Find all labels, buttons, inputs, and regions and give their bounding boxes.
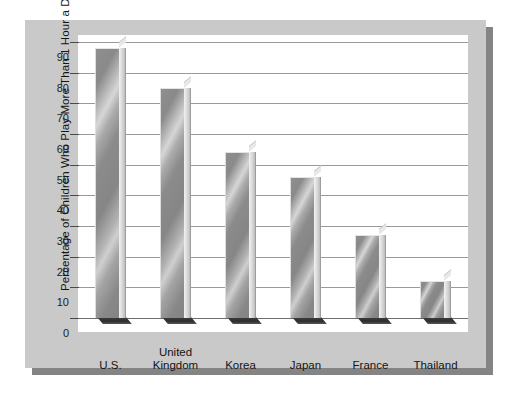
y-tick-label-50: 50: [43, 175, 69, 186]
bar-thailand: [420, 281, 451, 318]
bar-front-face: [420, 281, 444, 318]
bar-side-face: [119, 48, 126, 318]
y-tick-label-80: 80: [43, 83, 69, 94]
gridline-50: [78, 165, 468, 166]
gridline-10: [78, 287, 468, 288]
gridline-70: [78, 103, 468, 104]
bar-u-s: [95, 48, 126, 318]
bar-base-shadow: [292, 317, 327, 324]
bar-united-kingdom: [160, 88, 191, 318]
gridline-40: [78, 195, 468, 196]
y-axis-tick-labels: 9080706050403020100: [39, 35, 69, 332]
x-tick-label-line: Kingdom: [143, 359, 208, 372]
bar-korea: [225, 152, 256, 318]
gridlines: [78, 35, 468, 332]
y-tick-label-70: 70: [43, 113, 69, 124]
y-tick-label-60: 60: [43, 144, 69, 155]
bar-japan: [290, 177, 321, 318]
bar-side-face: [444, 281, 451, 318]
bar-side-face: [314, 177, 321, 318]
y-tick-mark-30: [70, 226, 79, 227]
bar-front-face: [225, 152, 249, 318]
x-tick-label-france: France: [338, 359, 403, 372]
y-tick-label-30: 30: [43, 236, 69, 247]
bar-side-face: [184, 88, 191, 318]
bar-side-face: [249, 152, 256, 318]
x-tick-label-japan: Japan: [273, 359, 338, 372]
gridline-60: [78, 134, 468, 135]
y-tick-label-40: 40: [43, 205, 69, 216]
gridline-0: [78, 318, 468, 319]
x-tick-label-thailand: Thailand: [403, 359, 468, 372]
y-tick-mark-0: [70, 318, 79, 319]
y-tick-mark-80: [70, 73, 79, 74]
bar-front-face: [160, 88, 184, 318]
bar-base-shadow: [227, 317, 262, 324]
x-tick-label-united-kingdom: UnitedKingdom: [143, 346, 208, 372]
bar-base-shadow: [162, 317, 197, 324]
y-tick-mark-20: [70, 257, 79, 258]
bar-base-shadow: [97, 317, 132, 324]
gridline-20: [78, 257, 468, 258]
gridline-90: [78, 42, 468, 43]
bar-base-shadow: [357, 317, 392, 324]
y-tick-label-90: 90: [43, 52, 69, 63]
bar-front-face: [95, 48, 119, 318]
chart-card: Percentage of Children Who Play More Tha…: [25, 20, 486, 368]
y-tick-label-20: 20: [43, 267, 69, 278]
x-tick-label-line: United: [143, 346, 208, 359]
x-tick-label-u-s: U.S.: [78, 359, 143, 372]
plot-area: [78, 35, 468, 332]
y-tick-label-10: 10: [43, 297, 69, 308]
gridline-30: [78, 226, 468, 227]
bar-front-face: [355, 235, 379, 318]
x-axis-tick-labels: U.S.UnitedKingdomKoreaJapanFranceThailan…: [78, 338, 468, 378]
gridline-80: [78, 73, 468, 74]
bar-side-face: [379, 235, 386, 318]
bar-france: [355, 235, 386, 318]
chart-figure: Percentage of Children Who Play More Tha…: [0, 0, 517, 404]
bar-base-shadow: [422, 317, 457, 324]
y-tick-mark-50: [70, 165, 79, 166]
y-tick-mark-90: [70, 42, 79, 43]
y-tick-mark-40: [70, 195, 79, 196]
y-tick-label-0: 0: [43, 328, 69, 339]
y-tick-mark-10: [70, 287, 79, 288]
y-tick-mark-70: [70, 103, 79, 104]
y-tick-mark-60: [70, 134, 79, 135]
x-tick-label-korea: Korea: [208, 359, 273, 372]
bar-front-face: [290, 177, 314, 318]
